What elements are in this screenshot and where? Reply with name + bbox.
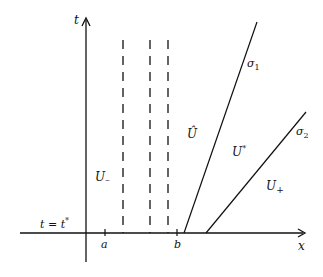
region-u-star: U* <box>232 144 246 159</box>
sigma2-label: σ2 <box>296 125 309 140</box>
region-u-plus: U+ <box>266 179 284 195</box>
x-axis-label: x <box>298 239 305 253</box>
tick-b-label: b <box>174 238 181 251</box>
time-line-label: t = t* <box>40 216 69 231</box>
tick-a-label: a <box>101 238 108 251</box>
region-u-minus: U– <box>95 170 110 185</box>
region-u-hat: Û <box>187 125 198 141</box>
sigma1-label: σ1 <box>247 57 260 72</box>
sigma2-line <box>206 112 306 233</box>
riemann-diagram: t x t = t* a b U– Û U* U+ σ1 σ2 <box>0 0 323 277</box>
t-axis-label: t <box>74 13 79 27</box>
